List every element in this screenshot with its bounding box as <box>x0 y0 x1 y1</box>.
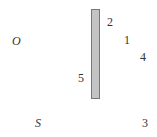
label-point-4: 4 <box>140 51 146 63</box>
label-o: O <box>12 35 21 47</box>
barrier-bar <box>91 9 100 99</box>
label-point-1: 1 <box>124 34 130 46</box>
label-s: S <box>35 117 41 129</box>
label-point-5: 5 <box>78 72 84 84</box>
label-point-3: 3 <box>142 117 148 129</box>
label-point-2: 2 <box>107 16 113 28</box>
